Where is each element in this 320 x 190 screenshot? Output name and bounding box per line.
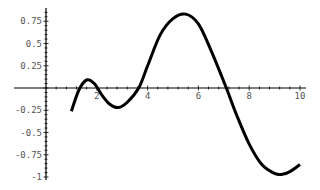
- y-tick-label: -1: [31, 172, 42, 182]
- y-tick-label: 0.5: [26, 39, 42, 49]
- x-tick-label: 10: [295, 91, 306, 101]
- line-chart: 2468100.750.50.25-0.25-0.5-0.75-1: [0, 0, 320, 190]
- y-tick-label: 0.25: [20, 61, 42, 71]
- tick-labels: 2468100.750.50.25-0.25-0.5-0.75-1: [15, 16, 306, 182]
- y-tick-label: -0.5: [20, 128, 42, 138]
- y-tick-label: 0.75: [20, 16, 42, 26]
- ticks: [44, 12, 301, 177]
- x-tick-label: 8: [246, 91, 251, 101]
- y-tick-label: -0.25: [15, 105, 42, 115]
- x-tick-label: 4: [145, 91, 150, 101]
- x-tick-label: 6: [196, 91, 201, 101]
- y-tick-label: -0.75: [15, 150, 42, 160]
- data-curve: [71, 14, 300, 175]
